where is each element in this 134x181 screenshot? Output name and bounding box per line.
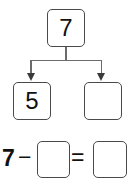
number-bond-part-right-box[interactable] [84, 82, 122, 120]
equation-subtrahend-input-box[interactable] [37, 141, 70, 178]
equation-row: 7 − = [0, 140, 134, 181]
minus-sign-icon: − [18, 146, 31, 169]
arrow-down-right-icon [97, 73, 105, 81]
equation-operand-text: 7 [2, 147, 15, 170]
arrow-down-left-icon [27, 73, 35, 81]
connector-branch-line [30, 60, 102, 62]
number-bond-whole-box[interactable]: 7 [47, 9, 85, 47]
equation-difference-input-box[interactable] [93, 141, 127, 178]
connector-arm-right-line [101, 60, 103, 74]
number-bond-worksheet: 7 5 7 − = [0, 0, 134, 181]
connector-arm-left-line [30, 60, 32, 74]
number-bond-part-left-box[interactable]: 5 [13, 82, 51, 120]
equals-sign-icon: = [71, 146, 84, 169]
